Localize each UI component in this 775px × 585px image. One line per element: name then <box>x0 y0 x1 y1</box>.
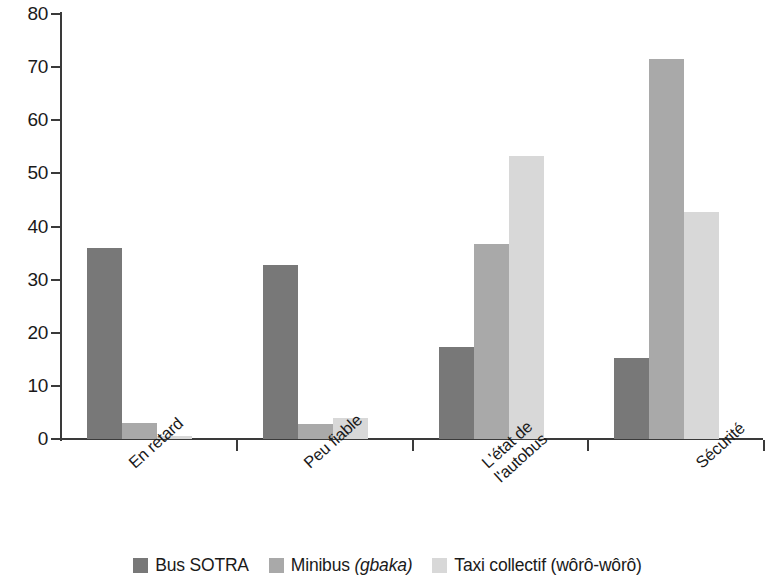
y-axis-tick-label: 50 <box>4 163 48 182</box>
x-axis-tick <box>763 440 765 451</box>
x-axis-tick <box>587 440 589 451</box>
bar <box>439 347 474 439</box>
bar <box>474 244 509 440</box>
y-axis-tick-label: 70 <box>4 57 48 76</box>
legend-swatch-icon <box>432 558 447 573</box>
y-axis-tick-label: 80 <box>4 4 48 23</box>
x-axis-tick <box>236 440 238 451</box>
legend-item: Bus SOTRA <box>133 556 249 575</box>
chart-legend: Bus SOTRAMinibus (gbaka)Taxi collectif (… <box>0 556 775 575</box>
bar <box>509 156 544 439</box>
legend-label: Minibus (gbaka) <box>291 556 413 575</box>
legend-label-italic: (gbaka) <box>354 555 412 575</box>
legend-label-plain: Minibus <box>291 555 355 575</box>
legend-label: Taxi collectif (wôrô-wôrô) <box>454 556 641 575</box>
bar <box>263 265 298 439</box>
legend-label: Bus SOTRA <box>155 556 249 575</box>
legend-swatch-icon <box>269 558 284 573</box>
x-axis-tick <box>412 440 414 451</box>
y-axis-tick-label: 30 <box>4 270 48 289</box>
legend-item: Minibus (gbaka) <box>269 556 413 575</box>
y-axis-tick-label: 20 <box>4 323 48 342</box>
y-axis-tick-label: 0 <box>4 429 48 448</box>
bar-chart: 80706050403020100 En retardPeu fiableL'é… <box>0 0 775 585</box>
y-axis-tick-label: 10 <box>4 376 48 395</box>
bar <box>87 248 122 439</box>
bar <box>614 358 649 439</box>
bar <box>649 59 684 439</box>
bar <box>684 212 719 439</box>
y-axis-tick-label: 40 <box>4 217 48 236</box>
bars-layer <box>60 14 763 439</box>
y-axis-tick-label: 60 <box>4 110 48 129</box>
legend-swatch-icon <box>133 558 148 573</box>
legend-item: Taxi collectif (wôrô-wôrô) <box>432 556 641 575</box>
